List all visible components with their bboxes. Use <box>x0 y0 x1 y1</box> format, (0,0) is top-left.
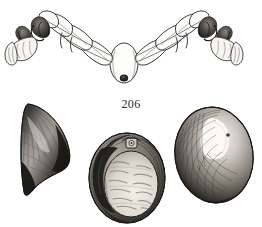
oval-shell-exterior-specimen <box>169 102 260 208</box>
wedge-shell-specimen <box>19 104 69 196</box>
illustration-plate: 206 <box>0 0 262 227</box>
shell-specimens-row <box>0 0 262 227</box>
oval-shell-interior-specimen <box>89 133 165 224</box>
